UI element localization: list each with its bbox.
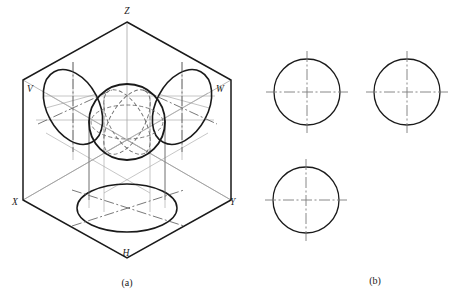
plane-label-w: W bbox=[216, 84, 225, 94]
plane-label-h: H bbox=[122, 248, 131, 258]
side-view bbox=[366, 51, 448, 133]
figure-root: Z V W X Y H (a) bbox=[0, 0, 457, 297]
top-view bbox=[265, 159, 347, 241]
v-plane-projection bbox=[20, 59, 130, 154]
panel-a-group: Z V W X Y H (a) bbox=[11, 6, 237, 289]
projector-top-left bbox=[46, 93, 150, 153]
axis-label-z: Z bbox=[124, 6, 130, 16]
box-interior-edges bbox=[23, 22, 231, 200]
caption-b: (b) bbox=[369, 275, 381, 287]
axis-label-y: Y bbox=[230, 197, 237, 207]
technical-drawing-canvas: Z V W X Y H (a) bbox=[0, 0, 457, 297]
axis-label-x: X bbox=[11, 197, 19, 207]
caption-a: (a) bbox=[121, 277, 132, 289]
panel-b-group: (b) bbox=[265, 51, 448, 287]
front-view bbox=[266, 51, 348, 133]
